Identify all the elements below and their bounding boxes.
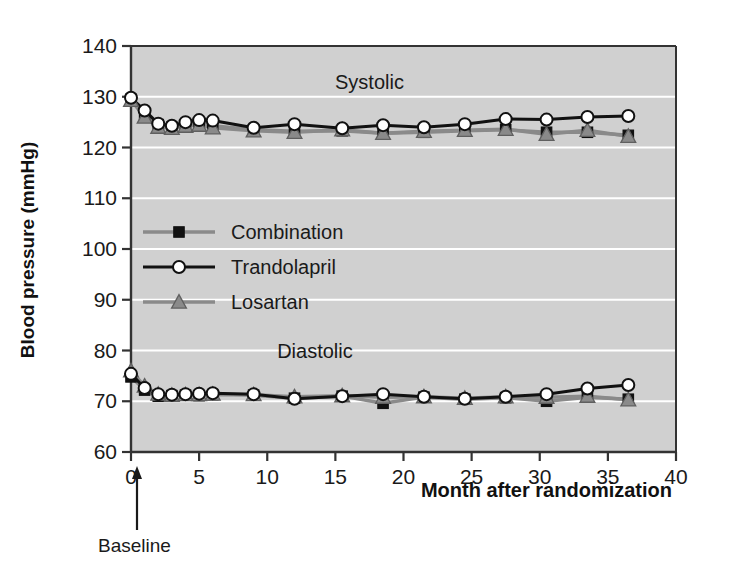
data-point-trandolapril bbox=[622, 379, 634, 391]
data-point-trandolapril bbox=[139, 104, 151, 116]
data-point-trandolapril bbox=[139, 382, 151, 394]
data-point-trandolapril bbox=[180, 116, 192, 128]
y-tick-label: 60 bbox=[94, 440, 117, 463]
data-point-trandolapril bbox=[125, 368, 137, 380]
data-point-trandolapril bbox=[166, 389, 178, 401]
data-point-trandolapril bbox=[193, 388, 205, 400]
data-point-trandolapril bbox=[622, 110, 634, 122]
data-point-trandolapril bbox=[248, 122, 260, 134]
data-point-trandolapril bbox=[152, 118, 164, 130]
x-tick-label: 10 bbox=[256, 465, 279, 488]
x-tick-label: 20 bbox=[392, 465, 415, 488]
legend-marker-combination bbox=[174, 227, 184, 237]
y-tick-label: 90 bbox=[94, 288, 117, 311]
annotation-systolic: Systolic bbox=[335, 71, 404, 93]
data-point-trandolapril bbox=[248, 388, 260, 400]
annotation-diastolic: Diastolic bbox=[277, 340, 353, 362]
data-point-trandolapril bbox=[541, 388, 553, 400]
legend-label-trandolapril: Trandolapril bbox=[231, 256, 336, 278]
data-point-trandolapril bbox=[418, 121, 430, 133]
data-point-trandolapril bbox=[193, 114, 205, 126]
data-point-trandolapril bbox=[500, 113, 512, 125]
chart-svg: 60708090100110120130140 0510152025303540… bbox=[0, 0, 731, 573]
legend-label-losartan: Losartan bbox=[231, 291, 309, 313]
legend-marker-trandolapril bbox=[173, 261, 185, 273]
data-point-trandolapril bbox=[581, 383, 593, 395]
y-tick-label: 100 bbox=[82, 237, 117, 260]
y-tick-label: 130 bbox=[82, 85, 117, 108]
data-point-trandolapril bbox=[207, 115, 219, 127]
x-tick-label: 15 bbox=[324, 465, 347, 488]
legend-label-combination: Combination bbox=[231, 221, 343, 243]
y-tick-label: 80 bbox=[94, 339, 117, 362]
blood-pressure-line-chart: 60708090100110120130140 0510152025303540… bbox=[0, 0, 731, 573]
data-point-trandolapril bbox=[152, 388, 164, 400]
y-tick-label: 110 bbox=[84, 186, 117, 209]
data-point-trandolapril bbox=[336, 122, 348, 134]
x-axis-title: Month after randomization bbox=[421, 479, 672, 501]
data-point-trandolapril bbox=[125, 92, 137, 104]
x-tick-label: 5 bbox=[193, 465, 205, 488]
data-point-trandolapril bbox=[207, 387, 219, 399]
y-tick-label: 140 bbox=[82, 34, 117, 57]
data-point-trandolapril bbox=[289, 118, 301, 130]
y-axis-title: Blood pressure (mmHg) bbox=[17, 142, 38, 358]
data-point-trandolapril bbox=[459, 118, 471, 130]
data-point-trandolapril bbox=[459, 393, 471, 405]
data-point-trandolapril bbox=[581, 111, 593, 123]
data-point-trandolapril bbox=[418, 391, 430, 403]
data-point-trandolapril bbox=[180, 388, 192, 400]
data-point-trandolapril bbox=[377, 119, 389, 131]
baseline-label: Baseline bbox=[98, 535, 171, 556]
y-tick-label: 70 bbox=[94, 389, 117, 412]
y-tick-label: 120 bbox=[82, 136, 117, 159]
data-point-trandolapril bbox=[541, 114, 553, 126]
data-point-trandolapril bbox=[166, 120, 178, 132]
data-point-trandolapril bbox=[377, 388, 389, 400]
data-point-trandolapril bbox=[336, 390, 348, 402]
data-point-trandolapril bbox=[289, 393, 301, 405]
data-point-trandolapril bbox=[500, 391, 512, 403]
